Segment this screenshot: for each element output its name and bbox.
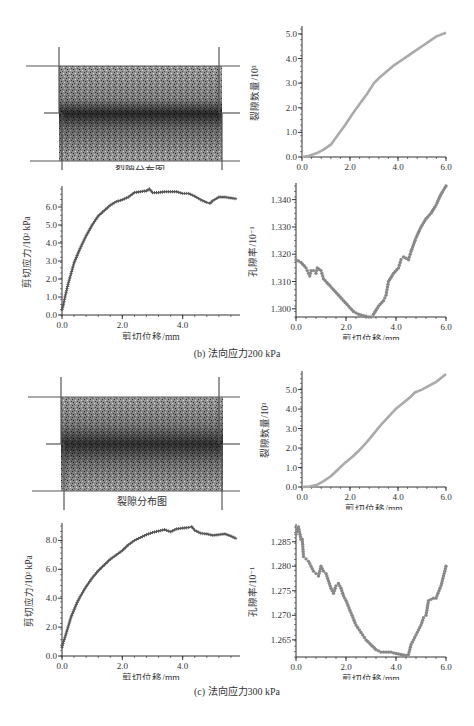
chart-b-shear-stress: 0.02.04.00.01.02.03.04.05.06.0剪切位移/mm剪切应… [0, 170, 240, 340]
x-tick-label: 2.0 [344, 492, 356, 502]
y-tick-label: 6.0 [46, 202, 58, 212]
y-tick-label: 1.280 [271, 561, 292, 571]
x-tick-label: 4.0 [177, 320, 189, 330]
y-axis-label: 剪切应力/10² kPa [23, 554, 34, 626]
x-axis-label: 剪切位移/mm [122, 672, 180, 680]
y-tick-label: 4.0 [46, 238, 58, 248]
y-tick-label: 1.300 [271, 304, 292, 314]
chart-c-porosity-svg: 0.02.04.06.01.2651.2701.2751.2801.285剪切位… [240, 510, 474, 680]
x-tick-label: 4.0 [392, 492, 404, 502]
data-series [302, 33, 446, 157]
x-tick-label: 0.0 [56, 661, 68, 671]
data-series [302, 374, 446, 487]
y-axis-label: 孔隙率/10⁻¹ [247, 226, 258, 276]
y-tick-label: 0.0 [46, 651, 58, 661]
y-axis-label: 裂隙数量/10³ [249, 65, 260, 120]
x-tick-label: 2.0 [117, 661, 129, 671]
chart-c-crack-count: 0.02.04.06.00.01.02.03.04.05.0剪切位移/mm裂隙数… [240, 360, 474, 510]
x-tick-label: 0.0 [296, 162, 308, 170]
x-tick-label: 2.0 [344, 162, 356, 170]
chart-c-shear-stress-svg: 0.02.04.00.02.04.06.08.0剪切位移/mm剪切应力/10² … [0, 510, 240, 680]
crack-map-label: 裂隙分布图 [117, 495, 167, 507]
x-tick-label: 4.0 [177, 661, 189, 671]
x-tick-label: 6.0 [440, 322, 452, 332]
crack-map-b-svg: 裂隙分布图 [0, 0, 240, 170]
y-axis-label: 剪切应力/10² kPa [21, 215, 32, 287]
y-tick-label: 5.0 [286, 29, 298, 39]
y-tick-label: 0.0 [46, 310, 58, 320]
y-tick-label: 3.0 [46, 256, 58, 266]
y-tick-label: 2.0 [286, 103, 298, 113]
chart-c-shear-stress: 0.02.04.00.02.04.06.08.0剪切位移/mm剪切应力/10² … [0, 510, 240, 680]
data-series [62, 189, 237, 310]
y-tick-label: 4.0 [286, 54, 298, 64]
y-tick-label: 5.0 [286, 385, 298, 395]
y-tick-label: 1.0 [286, 463, 298, 473]
y-axis-label: 裂隙数量/10³ [259, 403, 270, 458]
chart-b-shear-stress-svg: 0.02.04.00.01.02.03.04.05.06.0剪切位移/mm剪切应… [0, 170, 240, 340]
chart-b-porosity: 0.02.04.06.01.3001.3101.3201.3301.340剪切位… [240, 170, 474, 340]
chart-b-crack-count-svg: 0.02.04.06.00.01.02.03.04.05.0剪切位移/mm裂隙数… [240, 0, 474, 170]
x-tick-label: 4.0 [390, 322, 402, 332]
y-tick-label: 2.0 [286, 443, 298, 453]
chart-c-crack-count-svg: 0.02.04.06.00.01.02.03.04.05.0剪切位移/mm裂隙数… [240, 360, 474, 510]
subfigure-caption-b: (b) 法向应力200 kPa [0, 345, 474, 360]
y-tick-label: 0.0 [286, 482, 298, 492]
y-tick-label: 1.320 [271, 249, 292, 259]
chart-b-porosity-svg: 0.02.04.06.01.3001.3101.3201.3301.340剪切位… [240, 170, 474, 340]
x-tick-label: 6.0 [440, 492, 452, 502]
crack-map-c: 裂隙分布图 [0, 360, 240, 510]
subfigure-caption-c: (c) 法向应力300 kPa [0, 683, 474, 698]
x-tick-label: 6.0 [440, 162, 452, 170]
y-axis-label: 孔隙率/10⁻¹ [247, 567, 258, 617]
y-tick-label: 0.0 [286, 152, 298, 162]
y-tick-label: 1.265 [271, 635, 292, 645]
x-axis-label: 剪切位移/mm [345, 503, 403, 510]
y-tick-label: 2.0 [46, 622, 58, 632]
y-tick-label: 3.0 [286, 78, 298, 88]
x-tick-label: 4.0 [390, 662, 402, 672]
x-tick-label: 4.0 [392, 162, 404, 170]
y-tick-label: 1.310 [271, 277, 292, 287]
y-tick-label: 5.0 [46, 220, 58, 230]
y-tick-label: 1.340 [271, 195, 292, 205]
x-axis-label: 剪切位移/mm [342, 333, 400, 340]
y-tick-label: 4.0 [286, 404, 298, 414]
x-tick-label: 6.0 [440, 662, 452, 672]
y-tick-label: 2.0 [46, 274, 58, 284]
x-axis-label: 剪切位移/mm [122, 331, 180, 340]
y-tick-label: 3.0 [286, 424, 298, 434]
y-tick-label: 1.285 [271, 537, 292, 547]
x-tick-label: 0.0 [56, 320, 68, 330]
crack-map-b: 裂隙分布图 [0, 0, 240, 170]
data-series [62, 527, 237, 648]
x-tick-label: 0.0 [290, 662, 302, 672]
chart-b-crack-count: 0.02.04.06.00.01.02.03.04.05.0剪切位移/mm裂隙数… [240, 0, 474, 170]
y-tick-label: 1.330 [271, 222, 292, 232]
y-tick-label: 1.0 [46, 292, 58, 302]
chart-c-porosity: 0.02.04.06.01.2651.2701.2751.2801.285剪切位… [240, 510, 474, 680]
y-tick-label: 1.275 [271, 586, 292, 596]
y-tick-label: 6.0 [46, 564, 58, 574]
y-tick-label: 1.0 [286, 127, 298, 137]
x-tick-label: 2.0 [340, 662, 352, 672]
x-axis-label: 剪切位移/mm [342, 673, 400, 680]
y-tick-label: 8.0 [46, 535, 58, 545]
x-tick-label: 0.0 [296, 492, 308, 502]
x-tick-label: 2.0 [117, 320, 129, 330]
y-tick-label: 4.0 [46, 593, 58, 603]
x-tick-label: 0.0 [290, 322, 302, 332]
x-tick-label: 2.0 [340, 322, 352, 332]
crack-map-c-svg: 裂隙分布图 [0, 360, 240, 510]
y-tick-label: 1.270 [271, 610, 292, 620]
